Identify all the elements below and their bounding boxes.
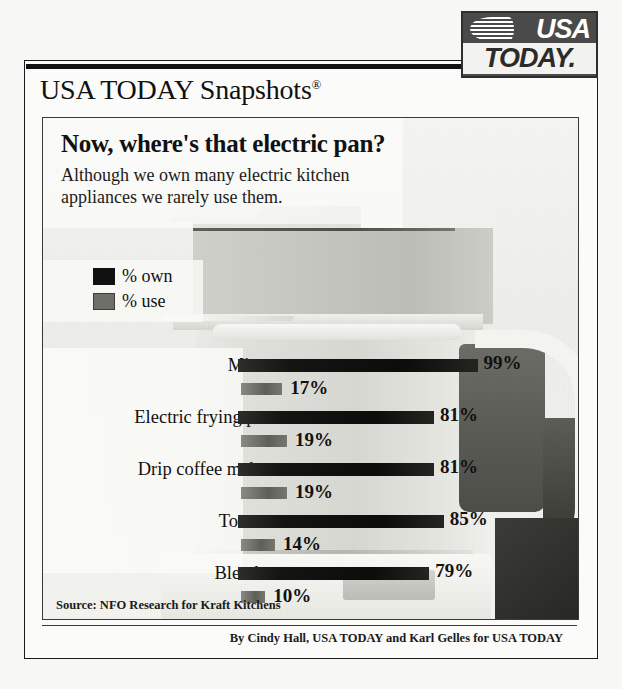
value-own: 79% xyxy=(435,560,473,582)
registered-mark: ® xyxy=(312,77,322,92)
bar-own xyxy=(238,411,434,424)
credit-bar: By Cindy Hall, USA TODAY and Karl Gelles… xyxy=(42,625,577,654)
snapshot-page: USA TODAY. USA TODAY Snapshots® xyxy=(0,0,622,689)
bar-own xyxy=(238,359,478,372)
bar-own xyxy=(238,567,429,580)
value-use: 19% xyxy=(295,429,333,451)
value-own: 99% xyxy=(484,352,522,374)
usa-today-logo: USA TODAY. xyxy=(461,11,598,78)
chart-row: Toaster 85% 14% xyxy=(43,509,578,561)
chart-row: Drip coffee maker 81% 19% xyxy=(43,457,578,509)
page-title: USA TODAY Snapshots® xyxy=(40,74,321,106)
bar-use xyxy=(241,435,287,447)
headline: Now, where's that electric pan? xyxy=(61,130,385,158)
legend-label-own: % own xyxy=(122,266,173,287)
value-own: 81% xyxy=(440,404,478,426)
logo-today-text: TODAY. xyxy=(463,43,596,74)
bar-use xyxy=(241,487,287,499)
legend-swatch-own-icon xyxy=(93,268,115,285)
credit-note: By Cindy Hall, USA TODAY and Karl Gelles… xyxy=(230,631,563,646)
logo-usa-text: USA xyxy=(463,14,596,44)
deck-text: Although we own many electric kitchen ap… xyxy=(61,165,391,209)
page-title-text: USA TODAY Snapshots xyxy=(40,74,312,105)
value-use: 17% xyxy=(290,377,328,399)
legend-item-use: % use xyxy=(93,291,173,312)
value-own: 85% xyxy=(450,508,488,530)
chart-row: Electric frying pan 81% 19% xyxy=(43,405,578,457)
value-use: 19% xyxy=(295,481,333,503)
value-own: 81% xyxy=(440,456,478,478)
bar-use xyxy=(241,383,282,395)
chart-legend: % own % use xyxy=(93,266,173,316)
chart-row: Mixer 99% 17% xyxy=(43,353,578,405)
bar-own xyxy=(238,463,434,476)
chart-panel: Now, where's that electric pan? Although… xyxy=(42,117,579,620)
value-use: 14% xyxy=(283,533,321,555)
bar-own xyxy=(238,515,444,528)
legend-swatch-use-icon xyxy=(93,293,115,310)
source-note: Source: NFO Research for Kraft Kitchens xyxy=(56,598,281,613)
bar-use xyxy=(241,539,275,551)
legend-item-own: % own xyxy=(93,266,173,287)
bar-chart: Mixer 99% 17% Electric frying pan 81% 19… xyxy=(43,353,578,613)
legend-label-use: % use xyxy=(122,291,166,312)
